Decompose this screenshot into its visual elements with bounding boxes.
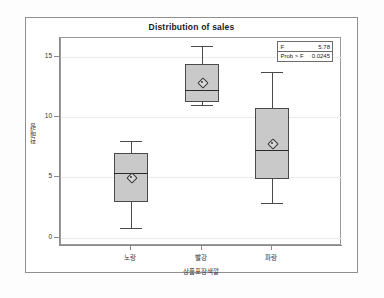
y-axis-tick-label: 0	[30, 233, 52, 240]
page-title: Distribution of sales	[25, 22, 358, 32]
stat-key-prob: Prob > F	[280, 52, 311, 60]
y-axis-tick	[54, 116, 59, 117]
gridline	[61, 177, 342, 178]
plot-area: F 5.78 Prob > F 0.0245	[60, 37, 341, 245]
y-axis-tick-label: 5	[30, 172, 52, 179]
x-axis-tick	[201, 246, 202, 250]
whisker-upper	[272, 72, 273, 108]
y-axis-tick	[54, 56, 59, 57]
gridline	[61, 117, 342, 118]
stat-value-prob: 0.0245	[312, 52, 330, 60]
whisker-cap-lower	[191, 105, 213, 106]
whisker-cap-lower	[261, 203, 283, 204]
median-line	[185, 90, 219, 91]
x-axis-tick-label: 빨강	[176, 252, 226, 262]
stat-row-prob: Prob > F 0.0245	[280, 52, 330, 60]
whisker-lower	[131, 202, 132, 228]
x-axis-tick-label: 파랑	[246, 252, 296, 262]
x-axis-tick-label: 노랑	[105, 252, 155, 262]
whisker-lower	[272, 179, 273, 203]
y-axis-tick-label: 15	[30, 52, 52, 59]
stat-value-f: 5.78	[318, 43, 330, 51]
y-axis-tick-label: 10	[30, 112, 52, 119]
whisker-cap-upper	[191, 46, 213, 47]
y-axis-title: 판매량	[29, 123, 39, 144]
mean-marker-dot	[271, 142, 273, 144]
whisker-cap-upper	[120, 141, 142, 142]
stat-key-f: F	[280, 43, 292, 51]
chart-screenshot: Distribution of sales F 5.78 Prob > F 0.…	[0, 0, 384, 298]
y-axis-line	[59, 37, 60, 246]
y-axis-tick	[54, 176, 59, 177]
whisker-cap-upper	[261, 72, 283, 73]
median-line	[255, 150, 289, 151]
gridline	[61, 238, 342, 239]
x-axis-tick	[271, 246, 272, 250]
anova-stats-box: F 5.78 Prob > F 0.0245	[277, 41, 333, 62]
x-axis-tick	[130, 246, 131, 250]
whisker-upper	[131, 141, 132, 153]
x-axis-title: 상품포장색깔	[60, 266, 341, 276]
y-axis-tick	[54, 237, 59, 238]
stat-row-f: F 5.78	[280, 43, 330, 51]
whisker-cap-lower	[120, 228, 142, 229]
whisker-upper	[202, 46, 203, 64]
